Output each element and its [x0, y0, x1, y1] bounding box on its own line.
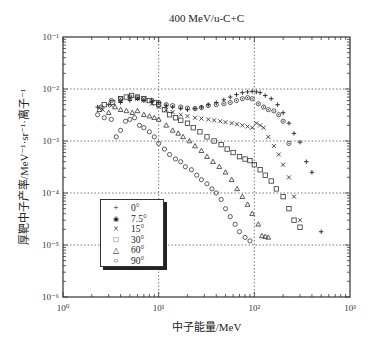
- legend-item-60deg: △60°: [101, 245, 163, 256]
- svg-text:10³: 10³: [344, 303, 356, 313]
- legend-label: 0°: [131, 203, 163, 213]
- legend-item-7-5deg: ◉7.5°: [101, 214, 163, 225]
- legend-label: 90°: [131, 256, 163, 266]
- svg-text:10⁰: 10⁰: [57, 303, 70, 313]
- legend-label: 60°: [131, 245, 163, 255]
- plus-marker-icon: +: [101, 203, 131, 213]
- circle-marker-icon: ○: [101, 256, 131, 265]
- legend-item-30deg: □30°: [101, 235, 163, 246]
- svg-text:10⁻⁵: 10⁻⁵: [42, 240, 59, 250]
- svg-text:10⁻¹: 10⁻¹: [43, 32, 60, 42]
- circle-dot-marker-icon: ◉: [101, 215, 131, 223]
- triangle-marker-icon: △: [101, 246, 131, 255]
- legend-item-0deg: +0°: [101, 203, 163, 214]
- svg-text:10¹: 10¹: [153, 303, 165, 313]
- cross-marker-icon: ×: [101, 224, 131, 234]
- svg-text:10⁻⁶: 10⁻⁶: [42, 292, 59, 302]
- legend-item-90deg: ○90°: [101, 256, 163, 267]
- scatter-plot: 10⁰10¹10²10³10⁻¹10⁻²10⁻³10⁻⁴10⁻⁵10⁻⁶: [0, 0, 373, 344]
- svg-text:10⁻⁴: 10⁻⁴: [42, 188, 59, 198]
- legend-label: 7.5°: [131, 214, 163, 224]
- legend-label: 15°: [131, 224, 163, 234]
- legend-label: 30°: [131, 235, 163, 245]
- svg-text:10⁻³: 10⁻³: [43, 136, 60, 146]
- square-marker-icon: □: [101, 235, 131, 244]
- tick-labels: 10⁰10¹10²10³10⁻¹10⁻²10⁻³10⁻⁴10⁻⁵10⁻⁶: [42, 32, 356, 313]
- legend: +0° ◉7.5° ×15° □30° △60° ○90°: [100, 199, 164, 267]
- legend-item-15deg: ×15°: [101, 224, 163, 235]
- svg-text:10⁻²: 10⁻²: [43, 84, 60, 94]
- svg-text:10²: 10²: [248, 303, 260, 313]
